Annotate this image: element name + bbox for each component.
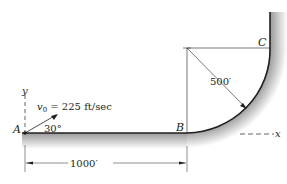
- label-point-a: A: [12, 123, 21, 136]
- label-x-axis: x: [275, 128, 281, 139]
- distance-dimension: [25, 145, 187, 172]
- label-angle: 30°: [44, 123, 62, 134]
- label-point-b: B: [175, 121, 184, 134]
- label-distance: 1000′: [70, 158, 98, 169]
- label-radius: 500′: [210, 76, 232, 87]
- label-point-c: C: [258, 36, 267, 49]
- projectile-track-diagram: A B C y x v0 = 225 ft/sec 30° 500′ 1000′: [0, 0, 287, 184]
- track-shading: [22, 12, 287, 150]
- diagram-svg: A B C y x v0 = 225 ft/sec 30° 500′ 1000′: [0, 0, 287, 184]
- label-y-axis: y: [21, 85, 28, 96]
- label-velocity: v0 = 225 ft/sec: [37, 101, 112, 114]
- track-surface: [22, 12, 270, 133]
